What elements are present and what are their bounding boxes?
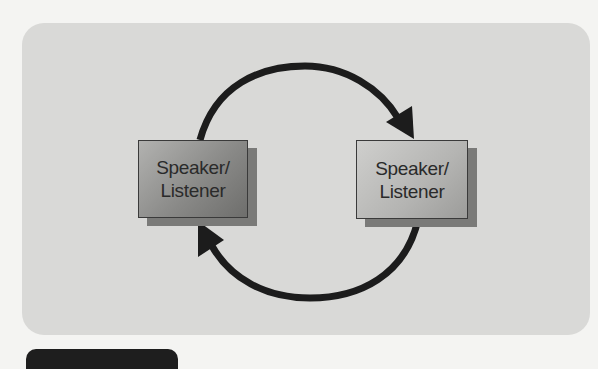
node-left: Speaker/ Listener: [138, 140, 248, 218]
speaker-listener-box-left: Speaker/ Listener: [138, 140, 248, 218]
node-label-line2: Listener: [379, 180, 444, 203]
node-label-line2: Listener: [160, 179, 225, 202]
arrow-left-to-right: [200, 66, 414, 140]
node-label-line1: Speaker/: [156, 156, 230, 179]
node-right: Speaker/ Listener: [356, 140, 468, 219]
speaker-listener-box-right: Speaker/ Listener: [356, 140, 468, 219]
node-label-line1: Speaker/: [375, 157, 449, 180]
arrowhead-icon: [198, 221, 224, 257]
arrow-right-to-left: [198, 220, 418, 298]
caption-tab: [26, 349, 178, 369]
